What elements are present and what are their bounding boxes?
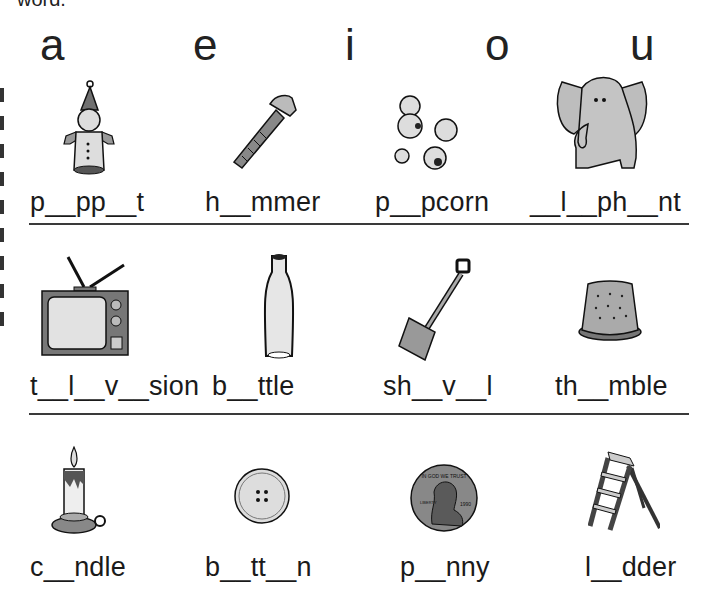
word-candle: c__ndle: [30, 551, 126, 583]
word-popcorn: p__pcorn: [375, 186, 489, 218]
television-icon: [40, 255, 130, 360]
penny-year: 1990: [460, 501, 471, 507]
penny-icon: IN GOD WE TRUST LIBERTY 1990: [408, 464, 480, 532]
left-edge-marks: [0, 88, 4, 340]
thimble-icon: [576, 278, 644, 344]
penny-motto: IN GOD WE TRUST: [421, 473, 466, 479]
vowel-i: i: [345, 20, 355, 70]
word-ladder: l__dder: [585, 551, 676, 583]
puppet-icon: [60, 80, 116, 180]
hammer-icon: [232, 92, 302, 172]
vowel-u: u: [630, 20, 654, 70]
row-divider-1: [29, 223, 689, 225]
vowel-e: e: [193, 20, 217, 70]
word-shovel: sh__v__l: [383, 370, 493, 402]
popcorn-icon: [390, 92, 470, 172]
ladder-icon: [588, 448, 660, 532]
word-bottle: b__ttle: [212, 370, 294, 402]
word-elephant: __l__ph__nt: [530, 186, 681, 218]
word-hammer: h__mmer: [205, 186, 320, 218]
candle-icon: [50, 445, 110, 535]
penny-liberty: LIBERTY: [420, 500, 437, 505]
elephant-icon: [552, 68, 652, 178]
row-divider-2: [29, 413, 689, 415]
word-television: t__l__v__sion: [30, 370, 199, 402]
button-icon: [232, 467, 292, 525]
word-thimble: th__mble: [555, 370, 668, 402]
vowel-o: o: [485, 20, 509, 70]
word-button: b__tt__n: [205, 551, 312, 583]
word-penny: p__nny: [400, 551, 490, 583]
shovel-icon: [395, 256, 485, 361]
vowel-a: a: [40, 20, 64, 70]
clipped-instruction-text: word.: [17, 0, 66, 11]
word-puppet: p__pp__t: [30, 186, 144, 218]
bottle-icon: [262, 252, 296, 362]
